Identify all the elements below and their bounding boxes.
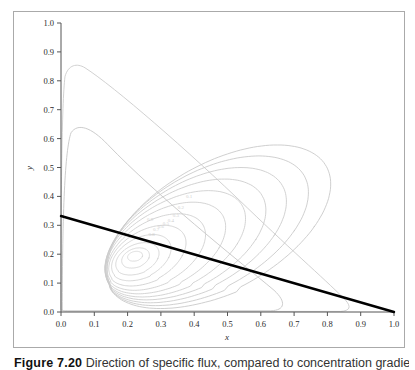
contour-plot: 0.00.10.20.30.40.50.60.70.80.91.00.00.10… <box>14 12 406 349</box>
figure-caption-number: Figure 7.20 <box>14 356 82 370</box>
x-tick-label: 0.6 <box>255 319 266 329</box>
contour-line <box>122 248 150 268</box>
x-tick-label: 0.9 <box>355 319 366 329</box>
figure-frame: 0.00.10.20.30.40.50.60.70.80.91.00.00.10… <box>13 11 405 348</box>
x-tick-label: 0.4 <box>189 319 200 329</box>
contour-outermost <box>61 65 349 311</box>
x-tick-label: 0.5 <box>222 319 233 329</box>
contour-label: 0.8 <box>148 232 155 237</box>
y-tick-label: 0.3 <box>43 220 54 230</box>
figure-caption-text: Direction of specific flux, compared to … <box>86 356 409 370</box>
contour-family <box>61 65 349 311</box>
x-tick-label: 0.8 <box>322 319 333 329</box>
figure-caption: Figure 7.20 Direction of specific flux, … <box>14 356 409 370</box>
x-tick-label: 0.0 <box>56 319 67 329</box>
y-tick-label: 0.1 <box>43 278 54 288</box>
contour-label: 0.1 <box>186 194 193 199</box>
x-axis-title: x <box>224 332 229 342</box>
y-tick-label: 0.0 <box>43 307 54 317</box>
x-tick-label: 0.7 <box>289 319 300 329</box>
contour-label: 0.2 <box>178 205 185 210</box>
y-tick-label: 0.6 <box>43 134 54 144</box>
y-tick-label: 0.7 <box>43 105 54 115</box>
y-tick-label: 0.8 <box>43 76 54 86</box>
y-axis-title: y <box>24 166 34 171</box>
contour-label-group: 0.10.20.30.40.50.60.70.80.9 <box>147 194 193 237</box>
y-tick-label: 0.2 <box>43 249 54 259</box>
x-tick-label: 1.0 <box>389 319 400 329</box>
y-tick-label: 0.5 <box>43 163 54 173</box>
axes <box>61 23 394 312</box>
contour-line <box>128 251 143 261</box>
y-tick-label: 0.4 <box>43 191 54 201</box>
x-tick-label: 0.2 <box>122 319 133 329</box>
x-tick-label: 0.3 <box>156 319 167 329</box>
tick-label-group: 0.00.10.20.30.40.50.60.70.80.91.00.00.10… <box>43 18 399 329</box>
straight-line <box>61 216 394 312</box>
contour-label: 0.7 <box>153 227 160 232</box>
y-tick-label: 0.9 <box>43 47 54 57</box>
y-tick-label: 1.0 <box>43 18 54 28</box>
contour-line <box>106 156 309 306</box>
x-tick-label: 0.1 <box>89 319 100 329</box>
contour-label: 0.9 <box>147 217 154 222</box>
